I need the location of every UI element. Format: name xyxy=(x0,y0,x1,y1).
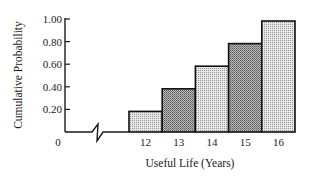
x-axis-title: Useful Life (Years) xyxy=(146,157,235,170)
bars xyxy=(129,21,295,132)
x-tick-label: 16 xyxy=(273,136,285,148)
x-axis-line-with-break xyxy=(65,124,129,141)
origin-label: 0 xyxy=(55,136,61,148)
bar-14 xyxy=(195,66,228,132)
bar-13 xyxy=(162,89,195,132)
x-tick-label: 13 xyxy=(173,136,185,148)
x-tick-label: 12 xyxy=(140,136,151,148)
x-axis-tick-labels: 1213141516 xyxy=(140,136,284,148)
bar-16 xyxy=(262,21,295,132)
x-tick-label: 15 xyxy=(240,136,252,148)
y-axis-ticks: 0.200.400.600.801.00 xyxy=(43,13,70,115)
y-tick-label: 0.80 xyxy=(43,36,63,48)
x-tick-label: 14 xyxy=(207,136,219,148)
y-tick-label: 0.40 xyxy=(43,81,63,93)
y-axis-title: Cumulative Probability xyxy=(12,21,25,129)
bar-15 xyxy=(229,44,262,132)
cumulative-probability-chart: Cumulative Probability 0.200.400.600.801… xyxy=(0,0,309,180)
y-tick-label: 0.60 xyxy=(43,58,63,70)
bar-12 xyxy=(129,111,162,132)
y-tick-label: 1.00 xyxy=(43,13,63,25)
y-tick-label: 0.20 xyxy=(43,103,63,115)
